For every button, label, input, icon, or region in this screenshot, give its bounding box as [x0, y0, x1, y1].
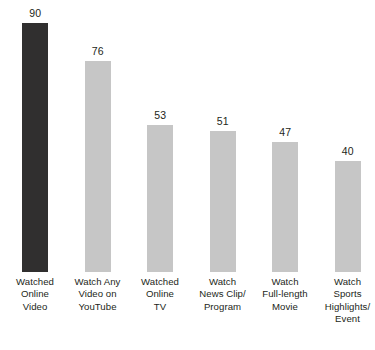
bar-group-1[interactable]: 76 [67, 0, 130, 272]
bar-column-2: 53 [147, 0, 173, 272]
category-label-4-line-2: Movie [250, 301, 320, 313]
category-label-5-line-3: Event [313, 313, 375, 325]
category-label-1-line-2: YouTube [63, 301, 133, 313]
category-label-3-line-1: News Clip/ [188, 288, 258, 300]
bar-rect-2[interactable] [147, 125, 173, 272]
category-label-1-line-0: Watch Any [63, 276, 133, 288]
bar-group-5[interactable]: 40 [317, 0, 375, 272]
bar-group-2[interactable]: 53 [129, 0, 192, 272]
category-axis-labels: Watched Online Video Watch Any Video on … [0, 276, 375, 350]
bar-chart: 90 76 53 51 [0, 0, 375, 350]
bar-value-label-5: 40 [342, 146, 354, 157]
category-label-1: Watch Any Video on YouTube [63, 276, 133, 313]
bar-value-label-4: 47 [279, 127, 291, 138]
category-label-4-line-0: Watch [250, 276, 320, 288]
category-label-2-line-2: TV [125, 301, 195, 313]
category-label-3-line-0: Watch [188, 276, 258, 288]
category-label-0-line-0: Watched [0, 276, 70, 288]
category-label-5: Watch Sports Highlights/ Event [313, 276, 375, 326]
bar-column-5: 40 [335, 0, 361, 272]
category-label-0-line-1: Online [0, 288, 70, 300]
category-label-2-line-0: Watched [125, 276, 195, 288]
bar-rect-3[interactable] [210, 131, 236, 272]
bar-group-3[interactable]: 51 [192, 0, 255, 272]
category-label-3-line-2: Program [188, 301, 258, 313]
bar-value-label-1: 76 [92, 46, 104, 57]
bar-rect-4[interactable] [272, 142, 298, 272]
category-label-0-line-2: Video [0, 301, 70, 313]
chart-plot-area: 90 76 53 51 [0, 0, 375, 272]
bar-group-4[interactable]: 47 [254, 0, 317, 272]
bar-column-1: 76 [85, 0, 111, 272]
category-label-5-line-1: Sports [313, 288, 375, 300]
category-label-2-line-1: Online [125, 288, 195, 300]
category-label-5-line-0: Watch [313, 276, 375, 288]
category-label-2: Watched Online TV [125, 276, 195, 313]
bar-column-3: 51 [210, 0, 236, 272]
bar-value-label-3: 51 [217, 116, 229, 127]
bar-rect-0[interactable] [22, 23, 48, 272]
bar-group-0[interactable]: 90 [4, 0, 67, 272]
category-label-1-line-1: Video on [63, 288, 133, 300]
category-label-0: Watched Online Video [0, 276, 70, 313]
bar-column-0: 90 [22, 0, 48, 272]
bar-rect-1[interactable] [85, 61, 111, 272]
category-label-4: Watch Full-length Movie [250, 276, 320, 313]
bar-column-4: 47 [272, 0, 298, 272]
bar-rect-5[interactable] [335, 161, 361, 272]
category-label-3: Watch News Clip/ Program [188, 276, 258, 313]
category-label-5-line-2: Highlights/ [313, 301, 375, 313]
bar-value-label-0: 90 [29, 8, 41, 19]
bar-value-label-2: 53 [154, 110, 166, 121]
category-label-4-line-1: Full-length [250, 288, 320, 300]
